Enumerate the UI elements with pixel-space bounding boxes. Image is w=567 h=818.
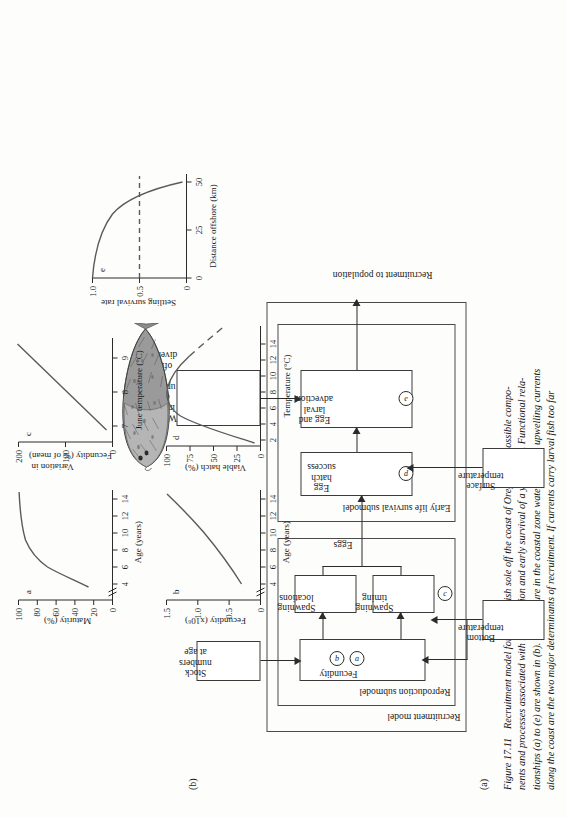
marker-b-circle: b [329, 651, 344, 666]
svg-text:Settling survival rate: Settling survival rate [101, 298, 176, 308]
box-stock-numbers-label: Stock numbers at age [178, 647, 212, 678]
svg-text:4: 4 [267, 421, 277, 426]
caption-line-3: tionships (a) to (e) are shown in (b). T… [530, 369, 541, 790]
svg-text:Viable hatch (%): Viable hatch (%) [185, 463, 246, 473]
chart-panel-d: 100 75 50 25 0 2 4 6 8 10 12 14 Temperat… [160, 316, 296, 478]
svg-text:8: 8 [119, 390, 129, 394]
edge-to-recruitment [356, 300, 357, 370]
box-spawning-timing[interactable]: Spawning timing [372, 575, 434, 613]
box-spawning-locations[interactable]: Spawning locations [294, 575, 356, 613]
svg-text:8: 8 [119, 548, 129, 552]
panel-mark-a: (a) [477, 779, 488, 790]
edge-stock-to-fecundity [260, 660, 299, 661]
arrow-fecundity-to-timing [396, 612, 404, 619]
chart-panel-e: 1.0 0.5 0 0 25 50 Distance offshore (km)… [86, 164, 218, 314]
svg-text:b: b [170, 589, 180, 594]
edge-locations-merge [322, 566, 323, 575]
svg-text:0: 0 [181, 286, 191, 290]
svg-text:0: 0 [193, 276, 203, 280]
recruitment-model-label: Recruitment model [387, 712, 460, 722]
box-surface-temperature-label: Surface temperature [457, 470, 502, 491]
marker-c-circle: c [437, 586, 452, 601]
svg-text:10: 10 [267, 529, 277, 538]
svg-text:e: e [96, 268, 106, 272]
svg-text:12: 12 [119, 512, 129, 521]
caption-line-1: Recruitment model for the English sole o… [501, 386, 512, 729]
svg-text:Distance offshore (km): Distance offshore (km) [207, 184, 217, 267]
arrow-fecundity-to-locations [318, 612, 326, 619]
svg-text:Fecundity (% of mean): Fecundity (% of mean) [28, 451, 111, 461]
svg-text:1.0: 1.0 [87, 286, 97, 297]
svg-text:Fecundity (x10⁶): Fecundity (x10⁶) [185, 616, 246, 626]
edge-bottomtemp-branch-up [425, 659, 467, 660]
panel-mark-b: (b) [186, 778, 197, 790]
svg-text:80: 80 [32, 608, 42, 617]
caption-line-4: along the coast are the two major determ… [544, 391, 555, 790]
svg-text:200: 200 [13, 450, 23, 463]
svg-text:0.5: 0.5 [134, 286, 144, 297]
box-bottom-temperature-label: Bottom temperature [457, 622, 502, 643]
svg-text:6: 6 [267, 406, 277, 410]
chart-panel-b: 1.5 1.0 0.5 0 4 6 8 10 12 14 Age (years)… [160, 480, 292, 630]
svg-text:25: 25 [232, 454, 242, 463]
box-bottom-temperature[interactable]: Bottom temperature [482, 600, 544, 640]
early-life-submodel-label: Early life survival submodel [342, 503, 450, 513]
svg-text:d: d [170, 435, 180, 440]
marker-a-circle: a [349, 651, 364, 666]
svg-text:7: 7 [119, 424, 129, 428]
svg-text:8: 8 [267, 390, 277, 394]
svg-text:Temperature (°C): Temperature (°C) [281, 354, 291, 417]
box-egg-hatch-success-label: Egg hatch success [302, 462, 340, 493]
edge-surfacetemp-to-hatch [412, 467, 482, 468]
svg-text:60: 60 [51, 608, 61, 617]
svg-text:8: 8 [267, 548, 277, 552]
box-fecundity-label: Fecundity [319, 669, 357, 679]
svg-text:c: c [22, 432, 32, 436]
svg-text:100: 100 [161, 454, 171, 467]
arrow-hatch-to-advection [352, 427, 360, 434]
svg-text:10: 10 [119, 529, 129, 538]
figure-stage: Figure 17.11Recruitment model for the En… [0, 0, 567, 818]
svg-text:10: 10 [267, 372, 277, 381]
svg-text:6: 6 [119, 565, 129, 569]
box-stock-numbers-at-age[interactable]: Stock numbers at age [196, 641, 260, 681]
chart-panel-c: 200 100 0 7 8 9 June temperature (°C) Va… [12, 328, 148, 478]
svg-text:0: 0 [255, 608, 265, 612]
svg-text:6: 6 [267, 565, 277, 569]
svg-text:4: 4 [119, 581, 129, 586]
edge-timing-merge [400, 566, 401, 575]
svg-text:Variation in: Variation in [30, 462, 73, 472]
edge-label-eggs: Eggs [333, 540, 352, 550]
box-surface-temperature[interactable]: Surface temperature [482, 448, 544, 488]
svg-text:14: 14 [267, 494, 277, 503]
box-egg-hatch-success[interactable]: Egg hatch success [300, 452, 412, 496]
svg-text:Age (years): Age (years) [280, 521, 290, 563]
svg-text:9: 9 [119, 356, 129, 360]
edge-label-recruitment: Recruitment to population [332, 270, 432, 280]
box-spawning-timing-label: Spawning timing [355, 592, 393, 613]
caption-line-2: nents and processes associated with repr… [515, 377, 526, 790]
marker-e-circle: e [398, 391, 413, 406]
svg-text:0: 0 [255, 454, 265, 458]
svg-text:14: 14 [267, 339, 277, 348]
arrow-bottomtemp-to-fecundity [421, 656, 428, 664]
figure-caption: Figure 17.11Recruitment model for the En… [500, 320, 558, 790]
arrow-bottomtemp-to-timing [430, 616, 437, 624]
svg-text:20: 20 [88, 608, 98, 617]
arrow-stock-to-fecundity [294, 657, 301, 665]
svg-text:2: 2 [267, 438, 277, 442]
svg-text:50: 50 [193, 178, 203, 187]
svg-text:12: 12 [267, 356, 277, 365]
svg-text:40: 40 [69, 608, 79, 617]
box-egg-larval-advection[interactable]: Egg and larval advection [300, 370, 412, 428]
svg-text:4: 4 [267, 581, 277, 586]
arrow-surfacetemp-to-hatch [406, 464, 413, 472]
svg-text:50: 50 [208, 454, 218, 463]
svg-text:25: 25 [193, 226, 203, 235]
edge-bottomtemp-branch [466, 619, 467, 660]
svg-text:75: 75 [185, 454, 195, 463]
rotated-page: Figure 17.11Recruitment model for the En… [0, 0, 567, 818]
svg-text:June temperature (°C): June temperature (°C) [133, 350, 143, 430]
svg-text:14: 14 [119, 494, 129, 503]
svg-text:12: 12 [267, 512, 277, 521]
